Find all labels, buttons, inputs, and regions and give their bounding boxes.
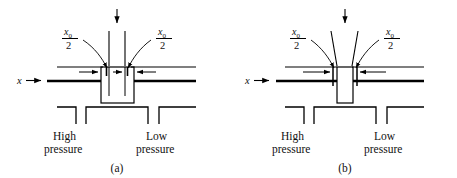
panel-b-left-frac-denominator: 2 (294, 40, 299, 51)
panel-b-right-frac-denominator: 2 (388, 40, 393, 51)
panel-a-high-pressure-label-line1: High (53, 130, 76, 143)
panel-b-caption: (b) (338, 162, 352, 175)
panel-b-axis-label: x (244, 75, 250, 86)
spool-valve-diagram: x x0 2 x0 (0, 0, 457, 178)
panel-b-high-pressure-label-line1: High (281, 130, 304, 143)
panel-a-caption: (a) (111, 162, 124, 175)
panel-a-left-frac-denominator: 2 (66, 40, 71, 51)
panel-b-low-pressure-label-line2: pressure (364, 143, 402, 156)
figure-root: x x0 2 x0 (0, 0, 457, 178)
panel-a-high-pressure-label-line2: pressure (44, 143, 82, 156)
panel-a-axis-label: x (16, 75, 22, 86)
panel-b-high-pressure-label-line2: pressure (272, 143, 310, 156)
panel-b-low-pressure-label-line1: Low (374, 130, 396, 142)
panel-a-right-frac-denominator: 2 (160, 40, 165, 51)
panel-a-low-pressure-label-line2: pressure (136, 143, 174, 156)
panel-a-low-pressure-label-line1: Low (146, 130, 168, 142)
